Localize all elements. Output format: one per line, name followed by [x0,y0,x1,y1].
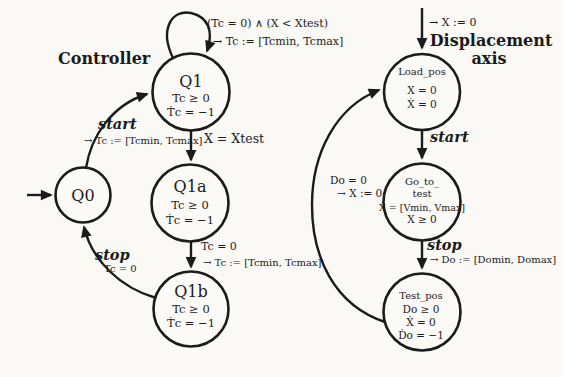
state-load-pos-flow: Ẋ = 0 [407,97,437,110]
transition-return-test-load [312,90,385,322]
label-q1a-q1b-action: → Tc := [Tcmin, Tcmax] [203,257,322,268]
controller-automaton: Controller Q0 Q1 Tc ≥ 0 Ṫc = −1 Q1a Tc ≥… [27,12,343,346]
state-load-pos-name: Load_pos [398,66,446,78]
state-test-pos-flow-do: Ḋo = −1 [398,328,444,341]
state-test-pos-name: Test_pos [399,290,443,302]
state-go-to-test-name-line1: Go_to_ [405,176,439,188]
scanned-figure-page: Controller Q0 Q1 Tc ≥ 0 Ṫc = −1 Q1a Tc ≥… [0,0,563,377]
label-return-action: → X := 0 [337,187,382,199]
state-q1a-invariant: Tc ≥ 0 [171,198,208,212]
state-q1-name: Q1 [179,72,202,91]
displacement-title-line2: axis [472,49,507,68]
label-stop-event: stop [95,246,130,263]
label-initial-action: → X := 0 [429,16,476,29]
state-go-to-test-invariant: X ≥ 0 [407,213,437,225]
label-stop-guard: Tc = 0 [104,263,137,274]
label-q1-q1a-guard: X = Xtest [204,131,264,146]
displacement-axis-automaton: Displacement axis Load_pos X = 0 Ẋ = 0 G… [312,8,556,351]
state-q1-flow: Ṫc = −1 [167,105,215,119]
state-q1-invariant: Tc ≥ 0 [172,91,209,105]
label-q1-loop-action: → Tc := [Tcmin, Tcmax] [213,35,343,48]
state-go-to-test-flow: Ẋ = [Vmin, Vmax] [379,202,465,213]
label-return-guard: Do = 0 [330,174,367,186]
label-stop-event-right: stop [427,236,462,253]
state-q1a-flow: Ṫc = −1 [166,213,214,227]
state-test-pos-flow-x: Ẋ = 0 [406,315,436,328]
state-q1b-name: Q1b [174,282,208,301]
state-go-to-test-name-line2: test [412,188,431,199]
state-q1a-name: Q1a [174,177,207,196]
state-test-pos-invariant: Do ≥ 0 [403,303,440,315]
state-load-pos-invariant: X = 0 [407,84,437,96]
displacement-title-line1: Displacement [430,31,553,50]
controller-title: Controller [58,49,151,68]
state-q1b-invariant: Tc ≥ 0 [172,302,209,316]
state-q1b-flow: Ṫc = −1 [167,316,215,330]
transition-q1-self-loop [167,12,210,58]
label-q1-loop-guard: (Tc = 0) ∧ (X < Xtest) [207,17,328,30]
hybrid-automata-diagram: Controller Q0 Q1 Tc ≥ 0 Ṫc = −1 Q1a Tc ≥… [0,0,563,377]
label-start-event-right: start [430,128,469,145]
label-start-action: → Tc := [Tcmin, Tcmax] [84,135,203,146]
label-start-event: start [98,115,137,132]
label-stop-action-right: → Do := [Domin, Domax] [430,254,556,265]
state-q0-name: Q0 [71,186,94,205]
label-q1a-q1b-guard: Tc = 0 [201,240,237,253]
